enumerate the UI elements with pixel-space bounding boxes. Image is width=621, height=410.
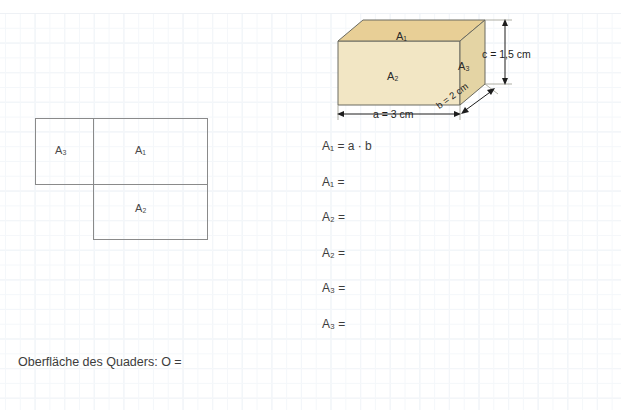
worksheet-page: A₃ A₁ A₂: [0, 0, 621, 410]
dimension-a-label: a = 3 cm: [373, 108, 414, 120]
net-face-a3-label: A₃: [55, 144, 67, 156]
equation-row-4[interactable]: A₂ =: [322, 246, 502, 282]
equation-row-5[interactable]: A₃ =: [322, 281, 502, 317]
cuboid-top-face: [338, 20, 485, 41]
equation-row-1[interactable]: A₁ = a · b: [322, 139, 502, 175]
equation-row-3[interactable]: A₂ =: [322, 210, 502, 246]
cuboid-side-face-label: A₃: [458, 60, 470, 72]
cuboid-net-diagram: A₃ A₁ A₂: [35, 118, 208, 240]
cuboid-illustration: A₁ A₂ A₃ c = 1,5 cm a = 3 cm b = 2 cm: [330, 8, 560, 126]
cuboid-top-face-label: A₁: [396, 30, 407, 42]
net-face-a1: [93, 118, 208, 185]
equation-row-2[interactable]: A₁ =: [322, 175, 502, 211]
equation-list: A₁ = a · b A₁ = A₂ = A₂ = A₃ = A₃ =: [322, 139, 502, 352]
net-face-a1-label: A₁: [135, 144, 146, 156]
dimension-c-label: c = 1,5 cm: [482, 48, 531, 60]
cuboid-front-face-label: A₂: [387, 70, 399, 82]
cuboid-svg: [330, 8, 560, 126]
surface-area-prompt[interactable]: Oberfläche des Quaders: O =: [18, 355, 182, 369]
equation-row-6[interactable]: A₃ =: [322, 317, 502, 353]
net-face-a2-label: A₂: [135, 202, 147, 214]
net-face-a2: [93, 184, 208, 240]
